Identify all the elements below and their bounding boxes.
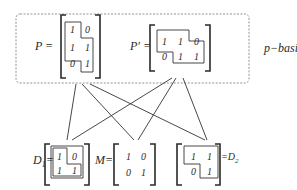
cell: 1 bbox=[85, 42, 90, 53]
cell: 1 bbox=[126, 151, 131, 162]
cell: 1 bbox=[178, 51, 183, 62]
matrix-p-prime-label: P′ = bbox=[129, 39, 151, 53]
matrix-p: P = 1 0 1 1 0 1 bbox=[34, 15, 100, 78]
pattern-outline bbox=[184, 146, 218, 178]
cell: 1 bbox=[57, 151, 62, 162]
edge-p-d1 bbox=[67, 84, 76, 140]
cell: 0 bbox=[162, 51, 167, 62]
cell: 1 bbox=[70, 24, 75, 35]
edges bbox=[67, 78, 207, 140]
cell: 1 bbox=[70, 42, 75, 53]
cell: 0 bbox=[141, 151, 146, 162]
cell: 0 bbox=[70, 58, 75, 69]
cell: 1 bbox=[72, 165, 77, 176]
p-basis-label: p−basis bbox=[263, 41, 297, 55]
cell: 0 bbox=[72, 151, 77, 162]
cell: 0 bbox=[191, 166, 196, 177]
cell: 1 bbox=[194, 51, 199, 62]
cell: 1 bbox=[207, 151, 212, 162]
cell: 1 bbox=[141, 167, 146, 178]
matrix-p-label: P = bbox=[34, 39, 53, 53]
edge-p-d2 bbox=[90, 84, 205, 140]
p-basis-diagram: p−basis P = 1 0 1 1 0 1 P′ = 1 1 0 0 1 1 bbox=[0, 0, 297, 190]
cell: 0 bbox=[126, 167, 131, 178]
matrix-d2: 1 1 0 1 =D2 bbox=[177, 144, 239, 185]
right-bracket bbox=[95, 15, 100, 78]
matrix-m: M= 1 0 0 1 bbox=[94, 144, 155, 185]
right-bracket bbox=[150, 144, 155, 185]
matrix-p-prime: P′ = 1 1 0 0 1 1 bbox=[129, 25, 210, 71]
cell: 1 bbox=[191, 151, 196, 162]
right-bracket bbox=[205, 25, 210, 71]
left-bracket bbox=[150, 25, 155, 71]
matrix-d1-label: D1= bbox=[32, 153, 54, 169]
right-bracket bbox=[84, 144, 89, 185]
cell: 1 bbox=[207, 166, 212, 177]
cell: 1 bbox=[162, 36, 167, 47]
cell: 1 bbox=[85, 58, 90, 69]
cell: 1 bbox=[57, 165, 62, 176]
cell: 1 bbox=[178, 36, 183, 47]
left-bracket bbox=[114, 144, 119, 185]
matrix-d2-label: =D2 bbox=[221, 151, 239, 165]
right-bracket bbox=[215, 144, 220, 185]
left-bracket bbox=[177, 144, 182, 185]
cell: 0 bbox=[85, 24, 90, 35]
matrix-m-label: M= bbox=[94, 153, 113, 167]
cell: 0 bbox=[194, 36, 199, 47]
matrix-d1: D1= 1 0 1 1 bbox=[32, 144, 89, 185]
